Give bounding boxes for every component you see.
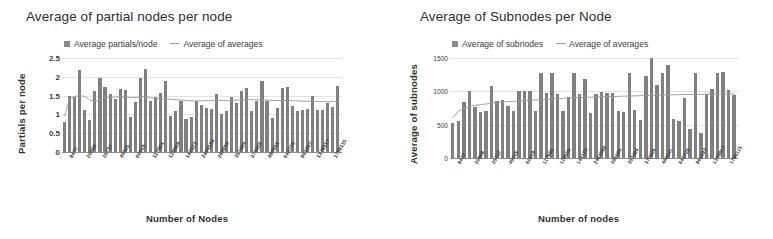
- y-axis-tick-label: 1: [56, 110, 60, 119]
- figure-container: Average of partial nodes per node Averag…: [0, 0, 773, 239]
- chart-panel-partial-nodes: Average of partial nodes per node Averag…: [0, 0, 400, 239]
- legend-item-line-series: Average of averages: [556, 39, 648, 49]
- chart-legend: Average partials/node Average of average…: [64, 39, 263, 49]
- legend-line-swatch-icon: [170, 43, 179, 44]
- y-axis-tick-label: 1500: [433, 55, 448, 62]
- legend-label-bar-series: Average of subnodes: [462, 39, 543, 49]
- legend-item-line-series: Average of averages: [170, 39, 262, 49]
- y-axis-tick-label: 2.5: [49, 54, 60, 63]
- y-axis-tick-label: 0: [444, 155, 448, 162]
- legend-item-bar-series: Average partials/node: [64, 39, 157, 49]
- y-axis-tick-label: 1.5: [49, 91, 60, 100]
- average-line-series: [62, 58, 342, 152]
- chart-title: Average of partial nodes per node: [26, 9, 232, 24]
- chart-panel-subnodes: Average of Subnodes per Node Average of …: [400, 0, 773, 239]
- chart-title: Average of Subnodes per Node: [420, 9, 612, 24]
- average-line-series: [450, 58, 738, 158]
- plot-area: 1500100050008477208682573749025606191179…: [408, 58, 746, 218]
- y-axis-tick-label: 0: [56, 148, 60, 157]
- legend-label-line-series: Average of averages: [569, 39, 648, 49]
- legend-line-swatch-icon: [556, 43, 565, 44]
- legend-square-swatch-icon: [452, 41, 458, 47]
- legend-label-bar-series: Average partials/node: [74, 39, 157, 49]
- legend-square-swatch-icon: [64, 41, 70, 47]
- legend-label-line-series: Average of averages: [183, 39, 262, 49]
- y-axis-tick-label: 2: [56, 72, 60, 81]
- y-axis-tick-label: 0.5: [49, 129, 60, 138]
- legend-item-bar-series: Average of subnodes: [452, 39, 543, 49]
- y-axis-tick-label: 1000: [433, 88, 448, 95]
- y-axis-tick-label: 500: [437, 121, 448, 128]
- plot-area: 2.521.510.508477208682573749025606191179…: [14, 58, 350, 212]
- x-axis-title: Number of nodes: [538, 213, 619, 224]
- chart-legend: Average of subnodes Average of averages: [452, 39, 648, 49]
- x-axis-title: Number of Nodes: [146, 213, 228, 224]
